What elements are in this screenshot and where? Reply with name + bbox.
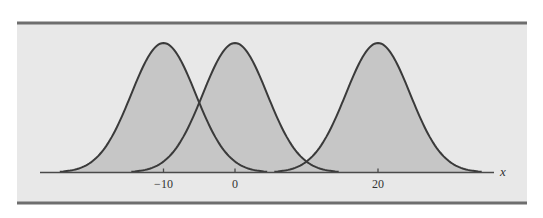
x-tick-label: −10 xyxy=(154,177,173,191)
x-tick-label: 0 xyxy=(232,177,238,191)
top-frame-bar xyxy=(17,22,527,25)
bottom-frame-bar xyxy=(17,202,527,205)
x-tick-label: 20 xyxy=(372,177,384,191)
x-axis-label: x xyxy=(499,164,506,179)
normal-curves-chart: −10020 x xyxy=(0,0,543,218)
